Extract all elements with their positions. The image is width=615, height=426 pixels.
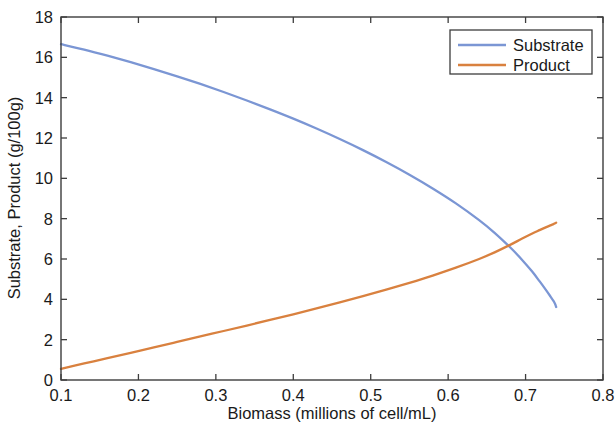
y-tick-label: 10 [35,169,53,187]
y-tick-label: 14 [35,89,53,107]
series-lines [61,44,556,369]
x-tick-label: 0.6 [437,386,460,404]
series-line-substrate [61,44,556,307]
y-tick-labels: 024681012141618 [35,8,53,389]
chart-figure: 0.10.20.30.40.50.60.70.8 024681012141618… [0,0,615,426]
y-tick-label: 12 [35,129,53,147]
series-line-product [61,223,556,369]
x-tick-label: 0.4 [282,386,305,404]
y-tick-label: 8 [44,210,53,228]
x-tick-label: 0.8 [592,386,615,404]
x-tick-label: 0.3 [204,386,227,404]
legend-label-product: Product [513,56,570,74]
chart-legend: Substrate Product [450,30,592,74]
y-tick-label: 2 [44,331,53,349]
y-tick-label: 16 [35,48,53,66]
line-chart: 0.10.20.30.40.50.60.70.8 024681012141618… [0,0,615,426]
y-tick-label: 6 [44,250,53,268]
legend-label-substrate: Substrate [513,36,584,54]
x-tick-label: 0.5 [359,386,382,404]
y-axis-title: Substrate, Product (g/100g) [5,97,23,300]
x-tick-labels: 0.10.20.30.40.50.60.70.8 [50,386,615,404]
y-tick-label: 0 [44,371,53,389]
x-tick-label: 0.2 [127,386,150,404]
x-axis-title: Biomass (millions of cell/mL) [227,404,436,422]
y-tick-label: 18 [35,8,53,26]
x-tick-label: 0.7 [514,386,537,404]
y-tick-label: 4 [44,290,53,308]
